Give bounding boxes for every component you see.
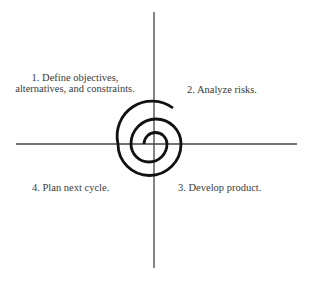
quadrant-2-label: 2. Analyze risks. bbox=[187, 84, 257, 95]
quadrant-1-label: 1. Define objectives, alternatives, and … bbox=[8, 72, 142, 94]
spiral-icon bbox=[117, 101, 181, 175]
diagram-graphics bbox=[0, 0, 311, 282]
quadrant-1-line-2: alternatives, and constraints. bbox=[8, 83, 142, 94]
quadrant-3-label: 3. Develop product. bbox=[178, 182, 261, 193]
quadrant-4-label: 4. Plan next cycle. bbox=[32, 182, 109, 193]
quadrant-1-line-1: 1. Define objectives, bbox=[8, 72, 142, 83]
spiral-model-diagram: 1. Define objectives, alternatives, and … bbox=[0, 0, 311, 282]
